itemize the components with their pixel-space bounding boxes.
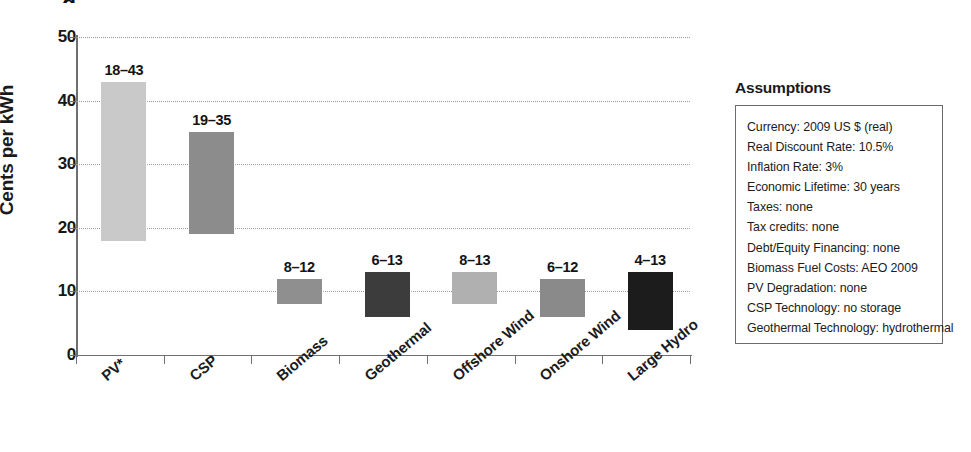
bar-value-label: 19–35	[167, 112, 257, 128]
bar-value-label: 8–12	[254, 259, 344, 275]
x-tick-mark	[164, 355, 165, 364]
bar-large-hydro	[628, 272, 673, 329]
gridline-50	[76, 37, 690, 38]
gridline-20	[76, 228, 690, 229]
y-tick-mark	[69, 291, 76, 292]
assumption-line: Biomass Fuel Costs: AEO 2009	[747, 258, 942, 278]
assumption-line: PV Degradation: none	[747, 278, 942, 298]
x-tick-mark	[251, 355, 252, 364]
x-axis-label-csp: CSP	[186, 352, 220, 384]
plot-area: 18–4319–358–126–138–136–124–13	[76, 37, 690, 355]
x-tick-mark	[602, 355, 603, 364]
bar-biomass	[277, 279, 322, 304]
assumption-line: CSP Technology: no storage	[747, 298, 942, 318]
x-tick-mark	[690, 355, 691, 364]
assumptions-box: Currency: 2009 US $ (real)Real Discount …	[735, 105, 943, 344]
assumption-line: Taxes: none	[747, 197, 942, 217]
y-tick-mark	[69, 37, 76, 38]
assumption-line: Tax credits: none	[747, 217, 942, 237]
x-tick-mark	[427, 355, 428, 364]
assumption-line: Real Discount Rate: 10.5%	[747, 137, 942, 157]
x-tick-mark	[339, 355, 340, 364]
bar-onshore-wind	[540, 279, 585, 317]
bar-offshore-wind	[452, 272, 497, 304]
assumptions-title: Assumptions	[735, 79, 945, 97]
assumption-line: Debt/Equity Financing: none	[747, 238, 942, 258]
bar-geothermal	[365, 272, 410, 317]
gridline-30	[76, 164, 690, 165]
bar-csp	[189, 132, 234, 234]
bar-value-label: 8–13	[430, 252, 520, 268]
y-tick-mark	[69, 355, 76, 356]
assumption-line: Geothermal Technology: hydrothermal	[747, 318, 942, 338]
y-tick-mark	[69, 228, 76, 229]
assumption-line: Inflation Rate: 3%	[747, 157, 942, 177]
bar-value-label: 18–43	[79, 62, 169, 78]
bar-value-label: 6–12	[517, 259, 607, 275]
bar-chart: Cents per kWh 01020304050 18–4319–358–12…	[0, 0, 720, 452]
assumption-line: Economic Lifetime: 30 years	[747, 177, 942, 197]
assumptions-panel: Assumptions Currency: 2009 US $ (real)Re…	[735, 79, 945, 344]
gridline-40	[76, 101, 690, 102]
bar-value-label: 4–13	[605, 252, 695, 268]
y-tick-mark	[69, 101, 76, 102]
x-tick-mark	[76, 355, 77, 364]
y-axis-title: Cents per kWh	[0, 85, 18, 215]
bar-value-label: 6–13	[342, 252, 432, 268]
assumption-line: Currency: 2009 US $ (real)	[747, 117, 942, 137]
x-tick-mark	[515, 355, 516, 364]
bar-pv	[101, 82, 146, 241]
x-axis-label-pv: PV*	[98, 355, 128, 384]
y-tick-mark	[69, 164, 76, 165]
